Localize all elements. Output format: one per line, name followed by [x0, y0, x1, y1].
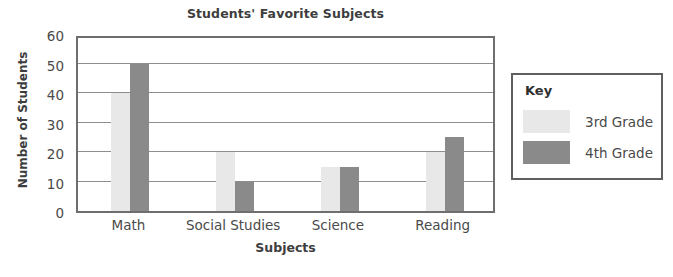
bar: [235, 182, 254, 212]
legend-entry-label: 3rd Grade: [585, 114, 653, 130]
bar-group: [111, 38, 149, 211]
bar-group: [426, 38, 464, 211]
chart-legend: Key 3rd Grade4th Grade: [511, 73, 663, 180]
legend-swatch: [523, 141, 570, 164]
bar: [445, 137, 464, 211]
y-axis-label: Number of Students: [16, 35, 30, 205]
bar-group: [321, 38, 359, 211]
bars-layer: [78, 38, 493, 211]
legend-swatch: [523, 110, 570, 133]
x-axis-tick-labels: MathSocial StudiesScienceReading: [76, 217, 495, 237]
legend-entry: 4th Grade: [523, 141, 653, 164]
y-tick-label: 60: [47, 28, 64, 44]
plot-area: [76, 36, 495, 213]
bar: [426, 152, 445, 211]
y-tick-label: 50: [47, 58, 64, 74]
y-tick-label: 0: [55, 205, 64, 221]
legend-title: Key: [525, 83, 552, 98]
y-axis-tick-labels: 0102030405060: [30, 36, 70, 213]
x-tick-label: Social Studies: [186, 217, 280, 233]
x-axis-label: Subjects: [76, 240, 495, 255]
bar: [321, 167, 340, 211]
y-tick-label: 30: [47, 117, 64, 133]
y-tick-label: 10: [47, 176, 64, 192]
chart-title: Students' Favorite Subjects: [76, 6, 495, 21]
y-tick-label: 40: [47, 87, 64, 103]
bar-group: [216, 38, 254, 211]
bar: [216, 152, 235, 211]
x-tick-label: Science: [312, 217, 364, 233]
bar: [111, 93, 130, 211]
bar-chart-figure: Students' Favorite Subjects Number of St…: [0, 0, 673, 277]
legend-entry-label: 4th Grade: [585, 145, 653, 161]
x-tick-label: Math: [111, 217, 145, 233]
x-tick-label: Reading: [415, 217, 470, 233]
y-tick-label: 20: [47, 146, 64, 162]
legend-entry: 3rd Grade: [523, 110, 653, 133]
bar: [130, 64, 149, 212]
bar: [340, 167, 359, 211]
